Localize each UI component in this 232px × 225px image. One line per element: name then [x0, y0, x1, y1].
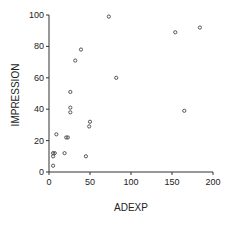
x-tick-label: 0 — [46, 177, 51, 187]
x-tick-label: 50 — [85, 177, 95, 187]
y-axis-title: IMPRESSION — [10, 64, 21, 127]
data-point — [88, 120, 91, 123]
y-tick-label: 0 — [39, 167, 44, 177]
data-point — [69, 90, 72, 93]
data-point — [52, 164, 55, 167]
y-axis: 020406080100 — [29, 10, 49, 177]
x-axis: 050100150200 — [46, 172, 220, 187]
x-tick-label: 150 — [164, 177, 179, 187]
data-point — [69, 106, 72, 109]
y-tick-label: 20 — [34, 136, 44, 146]
data-point — [52, 155, 55, 158]
data-point — [183, 109, 186, 112]
data-point — [84, 155, 87, 158]
data-point — [174, 31, 177, 34]
scatter-chart: 050100150200 020406080100 ADEXP IMPRESSI… — [0, 0, 232, 225]
x-axis-title: ADEXP — [114, 202, 148, 213]
data-point — [55, 133, 58, 136]
x-tick-label: 100 — [123, 177, 138, 187]
data-point — [74, 59, 77, 62]
data-point — [88, 125, 91, 128]
data-point — [63, 152, 66, 155]
y-tick-label: 80 — [34, 41, 44, 51]
data-point — [107, 15, 110, 18]
data-point — [198, 26, 201, 29]
y-tick-label: 60 — [34, 73, 44, 83]
x-tick-label: 200 — [205, 177, 220, 187]
data-point — [79, 48, 82, 51]
y-tick-label: 100 — [29, 10, 44, 20]
data-point — [69, 111, 72, 114]
plot-area — [52, 15, 202, 167]
y-tick-label: 40 — [34, 104, 44, 114]
data-point — [115, 76, 118, 79]
